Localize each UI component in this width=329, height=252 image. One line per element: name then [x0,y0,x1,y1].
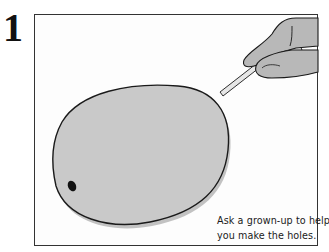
instruction-caption: Ask a grown-up to help you make the hole… [217,213,327,243]
caption-line-1: Ask a grown-up to help [217,213,327,228]
pin-icon [220,64,259,96]
caption-line-2: you make the holes. [217,228,327,243]
